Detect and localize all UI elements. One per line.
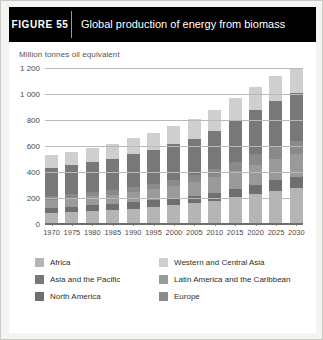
bar-segment (188, 175, 201, 182)
bar-segment (106, 195, 119, 205)
bar-segment (269, 76, 282, 101)
x-axis-tick-label: 2025 (268, 228, 285, 237)
bar-segment (65, 165, 78, 194)
legend-label: Europe (174, 292, 200, 301)
bar-segment (147, 200, 160, 207)
x-axis-tick-label: 2015 (227, 228, 244, 237)
legend-swatch (159, 292, 168, 301)
x-axis-tick-label: 1975 (64, 228, 81, 237)
legend-swatch (35, 275, 44, 284)
bar-segment (290, 68, 303, 93)
bar-segment (249, 154, 262, 164)
x-axis-tick-label: 2030 (288, 228, 305, 237)
bar-segment (229, 189, 242, 198)
bar-segment (249, 185, 262, 195)
bar-segment (86, 162, 99, 192)
gridline (45, 68, 303, 69)
legend-item[interactable]: North America (35, 292, 159, 301)
bar-segment (147, 150, 160, 184)
bar-segment (167, 126, 180, 144)
legend-item[interactable]: Europe (159, 292, 303, 301)
x-axis-tick-label: 2010 (206, 228, 223, 237)
y-axis-tick-label: 400 (27, 168, 40, 177)
bar-segment (290, 93, 303, 141)
bar-segment (45, 200, 58, 208)
legend-label: Asia and the Pacific (50, 275, 120, 284)
bar-segment (208, 177, 221, 192)
bar-segment (188, 203, 201, 224)
figure-panel: FIGURE 55 Global production of energy fr… (0, 0, 323, 340)
bar-segment (290, 154, 303, 177)
bar-segment (229, 171, 242, 189)
bar-segment (65, 152, 78, 166)
bar-segment (249, 110, 262, 154)
legend-label: North America (50, 292, 101, 301)
bar-segment (208, 131, 221, 170)
y-axis-tick-label: 1 200 (20, 64, 40, 73)
bar-segment (269, 180, 282, 190)
chart-panel: Million tonnes oil equivalent 1970197519… (9, 42, 316, 333)
legend-swatch (35, 258, 44, 267)
y-axis-tick-label: 1 000 (20, 90, 40, 99)
legend-swatch (159, 275, 168, 284)
bar-segment (147, 207, 160, 224)
figure-title: Global production of energy from biomass (72, 7, 316, 42)
bar-segment (290, 177, 303, 188)
gridline (45, 120, 303, 121)
y-axis-tick-label: 200 (27, 194, 40, 203)
bar-segment (290, 188, 303, 224)
legend-label: Latin America and the Caribbean (174, 275, 291, 284)
bar-segment (229, 98, 242, 120)
bar-segment (208, 193, 221, 201)
figure-header: FIGURE 55 Global production of energy fr… (9, 7, 316, 42)
bar-segment (249, 165, 262, 185)
bar-segment (167, 205, 180, 224)
x-axis-tick-label: 1970 (43, 228, 60, 237)
legend-item[interactable]: Western and Central Asia (159, 258, 303, 267)
chart-legend: AfricaWestern and Central AsiaAsia and t… (35, 254, 303, 305)
x-axis-tick-label: 2000 (166, 228, 183, 237)
x-axis-tick-label: 2005 (186, 228, 203, 237)
legend-item[interactable]: Asia and the Pacific (35, 275, 159, 284)
x-axis-tick-label: 1980 (84, 228, 101, 237)
bar-segment (147, 133, 160, 150)
bar-segment (269, 159, 282, 181)
bar-segment (269, 191, 282, 224)
bar-segment (188, 182, 201, 196)
axis-unit-label: Million tonnes oil equivalent (19, 50, 120, 59)
bar-segment (167, 186, 180, 198)
x-axis-tick-label: 1995 (145, 228, 162, 237)
legend-item[interactable]: Latin America and the Caribbean (159, 275, 303, 284)
bar-segment (229, 162, 242, 171)
x-axis-tick-label: 1985 (104, 228, 121, 237)
gridline (45, 172, 303, 173)
bar-segment (290, 141, 303, 154)
bar-segment (229, 121, 242, 162)
bar-segment (127, 154, 140, 187)
y-axis-tick-label: 800 (27, 116, 40, 125)
bar-segment (188, 119, 201, 139)
bar-segment (45, 155, 58, 168)
bar-segment (188, 139, 201, 176)
bar-segment (229, 197, 242, 224)
figure-number: FIGURE 55 (9, 7, 71, 42)
bar-segment (269, 101, 282, 147)
legend-swatch (159, 258, 168, 267)
bar-segment (269, 147, 282, 159)
bar-segment (86, 148, 99, 162)
bar-segment (65, 198, 78, 206)
bar-segment (106, 159, 119, 190)
plot-area: 1970197519801985199019952000200520102015… (45, 68, 303, 224)
bar-segment (208, 169, 221, 177)
gridline (45, 198, 303, 199)
x-axis-tick-label: 1990 (125, 228, 142, 237)
legend-label: Western and Central Asia (174, 258, 265, 267)
gridline (45, 146, 303, 147)
legend-swatch (35, 292, 44, 301)
gridline (45, 94, 303, 95)
bar-segment (188, 196, 201, 204)
gridline (45, 224, 303, 225)
legend-item[interactable]: Africa (35, 258, 159, 267)
y-axis-tick-label: 600 (27, 142, 40, 151)
y-axis-tick-label: 0 (36, 220, 40, 229)
